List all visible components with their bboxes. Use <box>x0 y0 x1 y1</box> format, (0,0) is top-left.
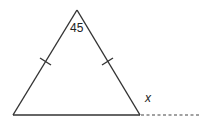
triangle-diagram: 45 x <box>0 0 209 125</box>
right-side-tick-mark <box>102 58 113 65</box>
left-side <box>13 10 77 115</box>
apex-angle-label: 45 <box>70 21 84 35</box>
exterior-angle-label: x <box>144 91 152 105</box>
right-side <box>77 10 140 115</box>
left-side-tick-mark <box>40 58 51 65</box>
